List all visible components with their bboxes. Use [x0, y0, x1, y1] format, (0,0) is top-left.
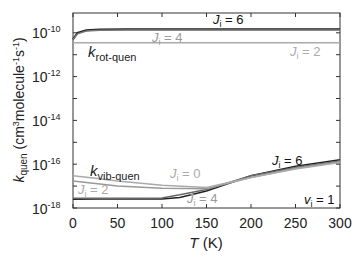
x-tick-labels: 0 50 100 150 200 250 300 [69, 215, 352, 231]
x-axis-title: T (K) [189, 234, 222, 251]
x-tick-0: 0 [69, 215, 77, 231]
chart: 10-10 10-12 10-14 10-16 10-18 0 50 100 1… [0, 0, 356, 260]
y-tick-1e-12: 10-12 [32, 68, 61, 85]
y-tick-1e-14: 10-14 [32, 112, 61, 129]
annotation-rot-j2: Ji = 2 [289, 44, 321, 61]
annotation-vib-j2: Ji = 2 [77, 182, 109, 199]
annotation-rot-j6: Ji = 6 [212, 12, 244, 29]
annotation-rot-j4: Ji = 4 [151, 30, 183, 47]
y-axis-title: kquen (cm3molecule-1s-1) [11, 37, 29, 182]
y-tick-1e-16: 10-16 [32, 156, 61, 173]
annotation-vib-j6: Ji = 6 [271, 153, 303, 170]
annotation-k-rot-quen: krot-quen [88, 43, 136, 63]
x-tick-300: 300 [328, 215, 352, 231]
x-tick-100: 100 [150, 215, 174, 231]
curve-k-rot-quen-j-i-4 [73, 30, 340, 40]
annotation-vi-1: vi = 1 [304, 192, 335, 209]
annotation-k-vib-quen: kvib-quen [90, 162, 140, 182]
annotation-vib-j0: Ji = 0 [169, 166, 201, 183]
x-tick-250: 250 [284, 215, 308, 231]
x-tick-50: 50 [110, 215, 126, 231]
annotation-vib-j4: Ji = 4 [186, 191, 218, 208]
y-tick-1e-10: 10-10 [32, 24, 61, 41]
x-tick-200: 200 [239, 215, 263, 231]
x-tick-150: 150 [195, 215, 219, 231]
y-tick-labels: 10-10 10-12 10-14 10-16 10-18 [32, 24, 61, 217]
y-tick-1e-18: 10-18 [32, 200, 61, 217]
